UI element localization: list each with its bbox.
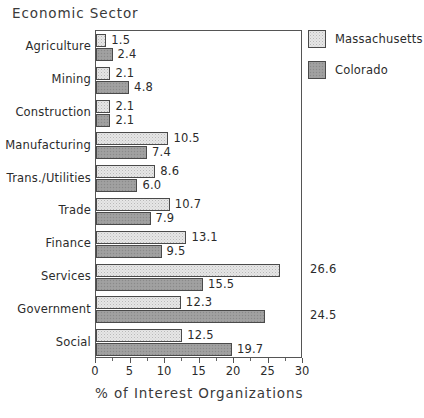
bar-massachusetts-9 — [96, 329, 182, 342]
bar-colorado-6 — [96, 245, 162, 258]
category-label-agriculture: Agriculture — [3, 39, 91, 53]
category-label-finance: Finance — [3, 236, 91, 250]
legend-swatch-colorado — [308, 61, 326, 79]
bar-value-label: 10.7 — [175, 198, 201, 211]
category-label-trans-utilities: Trans./Utilities — [3, 171, 91, 185]
bar-massachusetts-2 — [96, 100, 110, 113]
bar-value-label: 24.5 — [310, 309, 336, 322]
bar-value-label: 12.5 — [187, 329, 213, 342]
x-tick-major — [268, 358, 269, 363]
x-tick-label: 0 — [91, 364, 98, 378]
x-tick-minor — [112, 358, 113, 361]
x-tick-label: 20 — [226, 364, 241, 378]
bar-massachusetts-1 — [96, 67, 110, 80]
bar-value-label: 13.1 — [191, 231, 217, 244]
bar-value-label: 19.7 — [237, 343, 263, 356]
category-label-construction: Construction — [3, 105, 91, 119]
x-tick-minor — [216, 358, 217, 361]
bar-massachusetts-7 — [96, 264, 280, 277]
x-tick-major — [130, 358, 131, 363]
x-axis-title: % of Interest Organizations — [95, 385, 302, 401]
bar-chart: Economic Sector AgricultureMiningConstru… — [0, 0, 424, 418]
bar-value-label: 26.6 — [310, 263, 336, 276]
bar-colorado-3 — [96, 146, 147, 159]
x-tick-label: 25 — [260, 364, 275, 378]
bar-value-label: 2.1 — [115, 67, 134, 80]
x-tick-minor — [250, 358, 251, 361]
legend-entry-massachusetts[interactable]: Massachusetts — [308, 30, 423, 48]
bar-value-label: 6.0 — [142, 179, 161, 192]
x-tick-label: 10 — [157, 364, 172, 378]
legend-label: Massachusetts — [335, 32, 423, 46]
plot-area: 1.52.42.14.82.12.110.57.48.66.010.77.913… — [95, 30, 302, 358]
category-label-mining: Mining — [3, 72, 91, 86]
bar-value-label: 8.6 — [160, 165, 179, 178]
bar-value-label: 15.5 — [208, 278, 234, 291]
bar-value-label: 2.1 — [115, 114, 134, 127]
legend-entry-colorado[interactable]: Colorado — [308, 61, 388, 79]
category-label-manufacturing: Manufacturing — [3, 138, 91, 152]
bar-colorado-8 — [96, 310, 265, 323]
bar-value-label: 7.9 — [156, 212, 175, 225]
bar-value-label: 12.3 — [186, 296, 212, 309]
bar-colorado-0 — [96, 48, 113, 61]
bar-value-label: 1.5 — [111, 34, 130, 47]
bar-value-label: 2.1 — [115, 100, 134, 113]
x-tick-label: 30 — [295, 364, 310, 378]
x-tick-major — [302, 358, 303, 363]
bar-value-label: 4.8 — [134, 81, 153, 94]
bar-colorado-9 — [96, 343, 232, 356]
legend-label: Colorado — [335, 63, 388, 77]
x-tick-label: 15 — [191, 364, 206, 378]
x-axis: 051015202530 — [95, 358, 302, 380]
bar-colorado-2 — [96, 114, 110, 127]
bar-massachusetts-4 — [96, 165, 155, 178]
category-axis-labels: AgricultureMiningConstructionManufacturi… — [0, 30, 91, 358]
bar-colorado-7 — [96, 278, 203, 291]
bar-massachusetts-5 — [96, 198, 170, 211]
bar-value-label: 10.5 — [173, 132, 199, 145]
bar-value-label: 2.4 — [118, 48, 137, 61]
x-tick-major — [199, 358, 200, 363]
category-label-social: Social — [3, 335, 91, 349]
chart-title: Economic Sector — [12, 5, 139, 21]
bar-colorado-5 — [96, 212, 151, 225]
x-tick-major — [233, 358, 234, 363]
x-tick-major — [95, 358, 96, 363]
x-tick-minor — [181, 358, 182, 361]
category-label-services: Services — [3, 269, 91, 283]
x-tick-minor — [147, 358, 148, 361]
bar-massachusetts-6 — [96, 231, 186, 244]
bar-massachusetts-8 — [96, 296, 181, 309]
legend-swatch-massachusetts — [308, 30, 326, 48]
x-tick-minor — [285, 358, 286, 361]
bar-value-label: 7.4 — [152, 146, 171, 159]
x-tick-label: 5 — [126, 364, 133, 378]
category-label-government: Government — [3, 302, 91, 316]
bar-value-label: 9.5 — [167, 245, 186, 258]
bar-colorado-4 — [96, 179, 137, 192]
bar-massachusetts-3 — [96, 132, 168, 145]
x-tick-major — [164, 358, 165, 363]
category-label-trade: Trade — [3, 203, 91, 217]
bar-massachusetts-0 — [96, 34, 106, 47]
bar-colorado-1 — [96, 81, 129, 94]
